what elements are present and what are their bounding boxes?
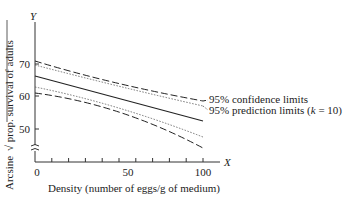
x-ticks	[52, 158, 203, 162]
svg-text:Arcsine √ prop. su: Arcsine √ prop. survival of adults	[3, 40, 15, 190]
x-tick-label-0: 0	[34, 166, 40, 178]
y-axis-label-rest: prop. survival of adults	[3, 40, 15, 142]
legend-prediction-label: 95% prediction limits (k = 10)	[209, 104, 342, 117]
y-tick-label-60: 60	[19, 90, 31, 102]
sqrt-icon: √	[3, 144, 15, 151]
y-axis-symbol: Y	[30, 10, 38, 22]
confidence-lower	[35, 93, 203, 148]
y-ticks	[35, 64, 39, 129]
y-tick-label-70: 70	[19, 58, 31, 70]
legend-pred-leader	[203, 106, 208, 110]
axis-break-icon	[31, 145, 39, 151]
y-axis-label-prefix: Arcsine	[3, 156, 15, 190]
regression-chart: Y X 70 60 50 0 50 100 Density (number of…	[0, 0, 354, 203]
regression-line	[35, 76, 203, 121]
x-tick-label-100: 100	[195, 166, 212, 178]
x-axis-label: Density (number of eggs/g of medium)	[48, 182, 220, 195]
x-axis-symbol: X	[223, 156, 232, 168]
prediction-upper	[35, 65, 203, 106]
x-tick-label-50: 50	[123, 166, 135, 178]
y-tick-label-50: 50	[19, 123, 31, 135]
legend-conf-leader	[203, 100, 208, 101]
confidence-upper	[35, 61, 203, 101]
y-axis-label: Arcsine √ prop. survival of adults	[3, 40, 15, 190]
